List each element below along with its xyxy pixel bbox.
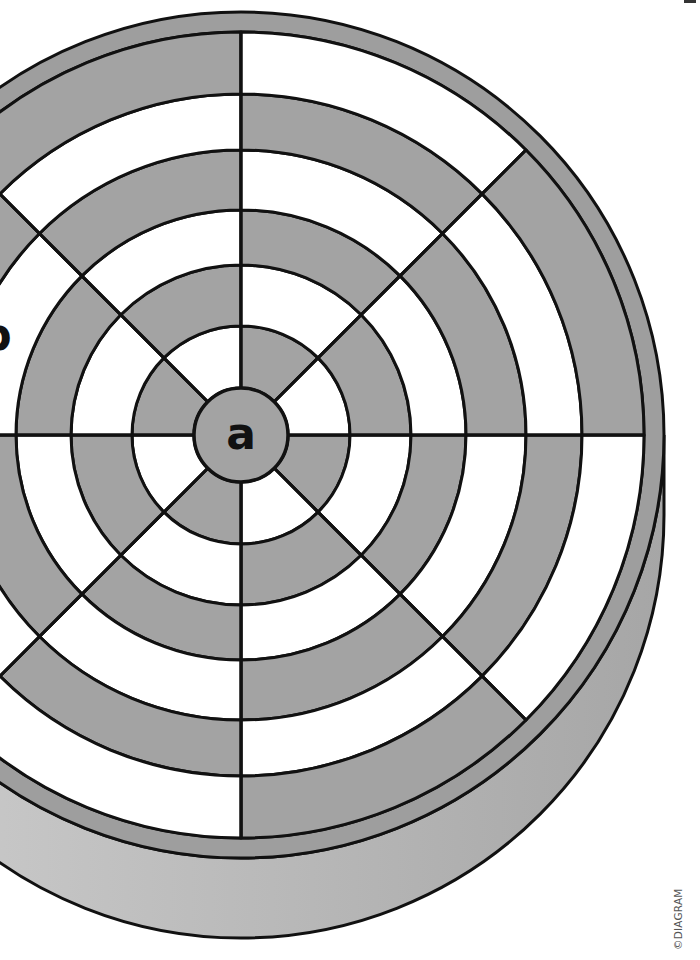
bullseye: a [194,388,288,482]
target-diagram: a b [0,0,700,960]
copyright-notice: ©DIAGRAM [672,888,684,950]
label-a: a [226,408,256,459]
label-b: b [0,309,12,360]
